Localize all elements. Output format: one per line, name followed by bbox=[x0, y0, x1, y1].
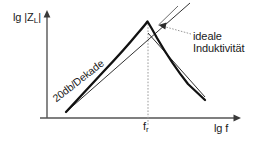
x-axis-arrowhead bbox=[234, 115, 242, 122]
ideal-callout-leader-group bbox=[159, 6, 192, 34]
ideal-inductance-lines bbox=[66, 3, 205, 112]
y-axis-label-prefix: lg |Z bbox=[13, 11, 34, 23]
axes-group bbox=[40, 10, 241, 121]
ideal-inductance-annotation-line1: ideale bbox=[193, 30, 222, 42]
y-axis-label: lg |ZL| bbox=[13, 11, 41, 26]
ideal-inductance-annotation: idealeInduktivität bbox=[193, 30, 244, 55]
ideal-inductive-asymptote bbox=[66, 3, 190, 112]
impedance-frequency-diagram: lg |ZL| lg f fr 20db/Dekade idealeIndukt… bbox=[0, 0, 257, 142]
x-axis-label: lg f bbox=[214, 122, 228, 134]
resonance-tick-label: fr bbox=[143, 120, 149, 135]
y-axis-arrowhead bbox=[44, 10, 51, 18]
ideal-callout-leader-line bbox=[164, 27, 191, 35]
y-axis-label-suffix: | bbox=[38, 11, 41, 23]
resonance-tick-label-subscript: r bbox=[146, 125, 149, 134]
ideal-inductance-annotation-line2: Induktivität bbox=[193, 42, 244, 54]
